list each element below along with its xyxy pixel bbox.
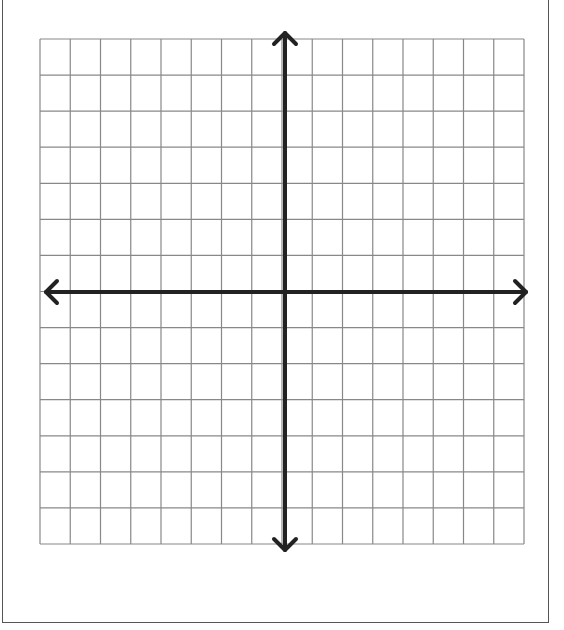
coordinate-plane [0,0,564,630]
